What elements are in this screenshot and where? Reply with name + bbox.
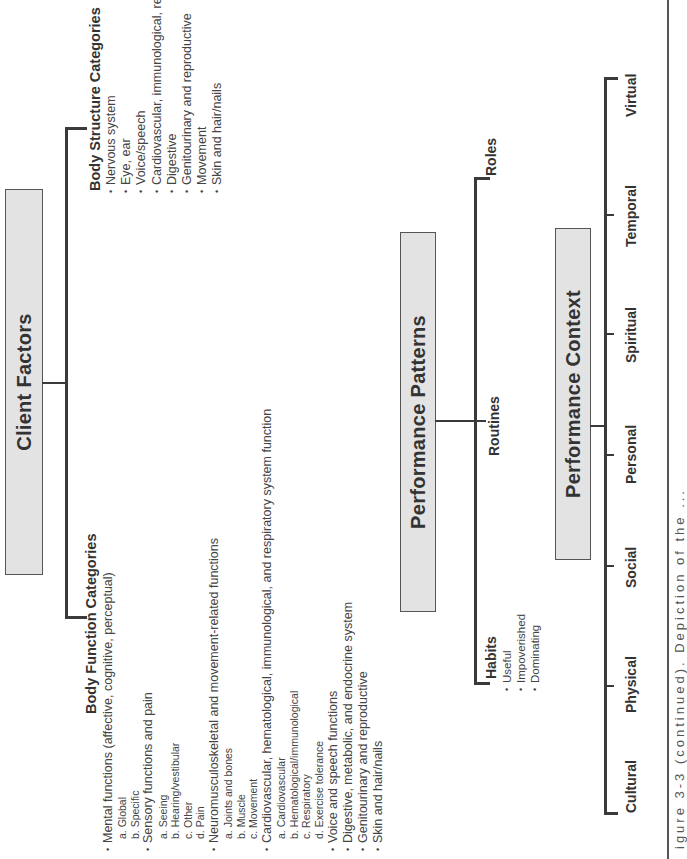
routines-label: Routines <box>486 396 502 456</box>
habits-drop <box>474 683 490 686</box>
body-function-subitem: b. Specific <box>129 409 142 851</box>
client-factors-trunk <box>65 127 68 619</box>
habits-list: Useful Impoverished Dominating <box>500 614 542 691</box>
routines-drop <box>474 420 486 422</box>
body-function-subitem: a. Global <box>116 409 129 851</box>
cultural-drop <box>604 813 618 816</box>
body-function-heading: Body Function Categories <box>83 534 99 714</box>
body-function-item: Genitourinary and reproductive <box>356 409 371 851</box>
body-structure-item: Eye, ear <box>119 0 134 193</box>
body-function-subitem: b. Muscle <box>235 409 248 851</box>
temporal-drop <box>604 214 614 216</box>
body-function-subitem: d. Pain <box>194 409 207 851</box>
body-structure-item: Cardiovascular, immunological, respirato… <box>150 0 165 193</box>
body-function-item: Sensory functions and pain <box>141 409 156 851</box>
context-spiritual: Spiritual <box>623 307 639 363</box>
personal-drop <box>604 454 614 456</box>
body-function-list: Mental functions (affective, cognitive, … <box>101 409 386 851</box>
performance-patterns-stem <box>435 420 475 422</box>
context-personal: Personal <box>623 425 639 484</box>
social-drop <box>604 565 614 567</box>
body-function-subitem: b. Hematological/immunological <box>288 409 301 851</box>
client-factors-box: Client Factors <box>5 189 43 575</box>
habits-label: Habits <box>483 636 499 679</box>
habits-item: Useful <box>500 614 514 691</box>
performance-context-title: Performance Context <box>562 290 585 498</box>
roles-label: Roles <box>483 138 499 176</box>
body-function-subitem: c. Other <box>182 409 195 851</box>
client-factors-right-drop <box>65 128 87 131</box>
context-social: Social <box>623 547 639 588</box>
roles-drop <box>474 178 490 181</box>
figure-caption: igure 3-3 (continued). Depiction of the … <box>672 488 687 849</box>
performance-context-trunk <box>604 78 607 815</box>
habits-item: Dominating <box>528 614 542 691</box>
body-structure-item: Genitourinary and reproductive <box>180 0 195 193</box>
body-function-item: Mental functions (affective, cognitive, … <box>101 409 116 851</box>
performance-patterns-box: Performance Patterns <box>400 232 436 612</box>
body-function-subitem: b. Hearing/vestibular <box>169 409 182 851</box>
performance-patterns-trunk <box>474 177 477 685</box>
context-physical: Physical <box>623 656 639 713</box>
body-structure-item: Skin and hair/nails <box>210 0 225 193</box>
body-function-item: Neuromusculoskeletal and movement-relate… <box>207 409 222 851</box>
body-structure-item: Nervous system <box>104 0 119 193</box>
body-function-subitem: a. Joints and bones <box>222 409 235 851</box>
body-function-item: Voice and speech functions <box>326 409 341 851</box>
body-function-subitem: c. Movement <box>247 409 260 851</box>
body-function-item: Digestive, metabolic, and endocrine syst… <box>341 409 356 851</box>
performance-context-box: Performance Context <box>555 228 591 560</box>
spiritual-drop <box>604 333 614 335</box>
performance-context-stem <box>590 425 605 427</box>
body-structure-item: Voice/speech <box>134 0 149 193</box>
context-virtual: Virtual <box>623 74 639 117</box>
context-temporal: Temporal <box>623 185 639 247</box>
performance-patterns-title: Performance Patterns <box>407 315 430 529</box>
body-function-subitem: a. Seeing <box>157 409 170 851</box>
body-function-subitem: d. Exercise tolerance <box>313 409 326 851</box>
client-factors-stem <box>42 382 66 384</box>
context-cultural: Cultural <box>623 760 639 813</box>
body-structure-item: Digestive <box>165 0 180 193</box>
body-structure-heading: Body Structure Categories <box>87 7 103 191</box>
body-function-item: Skin and hair/nails <box>371 409 386 851</box>
body-function-subitem: c. Respiratory <box>300 409 313 851</box>
body-structure-item: Movement <box>195 0 210 193</box>
body-function-item: Cardiovascular, hematological, immunolog… <box>260 409 275 851</box>
body-structure-list: Nervous system Eye, ear Voice/speech Car… <box>104 0 226 193</box>
client-factors-title: Client Factors <box>13 313 36 451</box>
physical-drop <box>604 685 614 687</box>
body-function-subitem: a. Cardiovascular <box>275 409 288 851</box>
virtual-drop <box>604 78 618 81</box>
habits-item: Impoverished <box>514 614 528 691</box>
caption-divider <box>667 0 669 859</box>
